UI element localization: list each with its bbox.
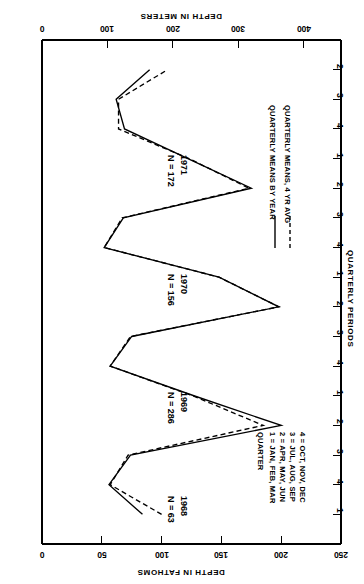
quarter-tick-label: 2	[336, 182, 345, 187]
bottom-tick-label: 200	[263, 550, 299, 559]
legend-label-dashed: QUARTERLY MEANS, 4 YR AVG	[283, 105, 292, 223]
quarter-tick-label: 1	[336, 508, 345, 513]
year-annotation: 1968N = 63	[164, 496, 190, 523]
quarter-tick-label: 1	[336, 271, 345, 276]
quarter-tick-label: 2	[336, 64, 345, 69]
ticks-right-quarters	[333, 70, 341, 515]
ticks-bottom-fathoms	[42, 536, 341, 544]
series-line-quarterly-means-4yr-avg	[104, 70, 279, 515]
year-label: 1971	[177, 155, 190, 187]
legend-line-samples	[268, 212, 308, 262]
quarter-tick-label: 4	[336, 360, 345, 365]
sample-size-label: N = 286	[164, 392, 177, 424]
bottom-tick-label: 250	[323, 550, 359, 559]
legend-label-solid: QUARTERLY MEANS BY YEAR	[268, 105, 277, 220]
top-tick-label: 100	[89, 24, 125, 33]
ticks-top-meters	[42, 40, 304, 48]
top-tick-label: 0	[24, 24, 60, 33]
quarter-tick-label: 3	[336, 330, 345, 335]
bottom-axis-title: DEPTH IN FATHOMS	[131, 568, 231, 577]
bottom-tick-label: 100	[144, 550, 180, 559]
bottom-tick-label: 150	[203, 550, 239, 559]
top-axis-title: DEPTH IN METERS	[131, 12, 231, 21]
sample-size-label: N = 156	[164, 274, 177, 306]
quarter-tick-label: 2	[336, 301, 345, 306]
year-annotation: 1969N = 286	[164, 392, 190, 424]
year-label: 1970	[177, 274, 190, 306]
quarter-tick-label: 2	[336, 419, 345, 424]
quarter-tick-label: 4	[336, 242, 345, 247]
top-tick-label: 200	[155, 24, 191, 33]
bottom-tick-label: 0	[24, 550, 60, 559]
sample-size-label: N = 63	[164, 496, 177, 523]
quarter-tick-label: 3	[336, 93, 345, 98]
quarter-tick-label: 3	[336, 449, 345, 454]
top-tick-label: 300	[220, 24, 256, 33]
quarter-tick-label: 1	[336, 390, 345, 395]
figure-canvas: DEPTH IN METERS 0100200300400 DEPTH IN F…	[0, 0, 364, 584]
quarter-tick-label: 1	[336, 153, 345, 158]
year-annotation: 1970N = 156	[164, 274, 190, 306]
quarter-key-line: 4 = OCT, NOV, DEC	[297, 432, 308, 503]
quarter-tick-label: 4	[336, 479, 345, 484]
bottom-tick-label: 50	[84, 550, 120, 559]
top-tick-label: 400	[286, 24, 322, 33]
year-annotation: 1971N = 172	[164, 155, 190, 187]
side-axis-title: QUARTERLY PERIODS	[346, 250, 355, 347]
year-label: 1969	[177, 392, 190, 424]
quarter-tick-label: 4	[336, 123, 345, 128]
sample-size-label: N = 172	[164, 155, 177, 187]
year-label: 1968	[177, 496, 190, 523]
quarter-key-title: QUARTER	[255, 432, 266, 470]
quarter-tick-label: 3	[336, 212, 345, 217]
